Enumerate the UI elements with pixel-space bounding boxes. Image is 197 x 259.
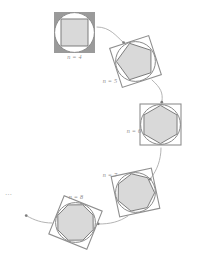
arrow-n4-to-n5 [97, 27, 125, 44]
stage-n4-shape-group [54, 12, 95, 53]
stage-n7-shape-group [111, 168, 160, 217]
stage-n6-shape-group [140, 104, 181, 145]
figure-canvas [0, 0, 197, 259]
stage-n4-label: n = 4 [67, 54, 81, 60]
stage-n7-label: n = 7 [103, 172, 117, 178]
arrow-head [25, 214, 28, 217]
arrow-n6-to-n7 [149, 148, 161, 181]
arrow-line [99, 216, 128, 224]
stage-n5-label: n = 5 [103, 78, 117, 84]
stage-n5-polygon [116, 43, 151, 79]
stage-n8-shape-group [49, 196, 102, 249]
polygon-sequence-figure: n = 4n = 5n = 6n = 7n = 8 … [0, 0, 197, 259]
stage-n4-polygon [61, 19, 88, 46]
arrow-n8-to-ellipsis [25, 214, 52, 223]
stage-n5-shape-group [110, 36, 162, 88]
shapes-layer [49, 12, 181, 249]
stage-n8-polygon [58, 205, 93, 240]
arrow-n7-to-n8 [97, 216, 128, 225]
sequence-ellipsis: … [5, 190, 13, 197]
stage-n8-label: n = 8 [69, 194, 83, 200]
stage-n6-polygon [144, 105, 177, 143]
arrow-line [97, 27, 123, 42]
stage-n6-label: n = 6 [127, 128, 141, 134]
arrow-head [160, 101, 163, 104]
arrow-line [27, 216, 52, 223]
arrow-line [152, 80, 162, 101]
arrow-n5-to-n6 [152, 80, 163, 104]
